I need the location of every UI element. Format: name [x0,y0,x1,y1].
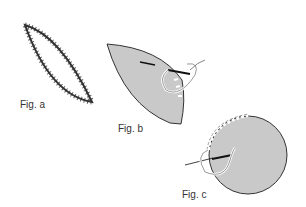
fig-b-fabric-leaf [107,44,184,124]
fig-c-label: Fig. c [182,190,206,200]
sewing-diagram [0,0,306,207]
fig-a-leaf-outline [25,25,92,102]
fig-b-label: Fig. b [118,124,143,134]
fig-a-label: Fig. a [20,100,45,110]
